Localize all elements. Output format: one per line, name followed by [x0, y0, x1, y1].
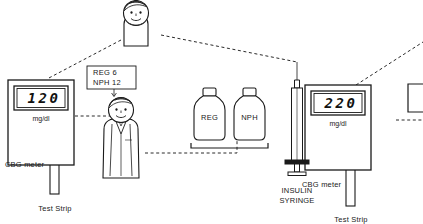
meter-reading-right: 220 — [319, 95, 363, 111]
syringe-label-line-1: INSULIN — [267, 186, 327, 195]
meter-reading-left: 120 — [22, 90, 66, 106]
connector-patient-to-syringe — [161, 35, 297, 62]
syringe-hub — [295, 80, 300, 88]
bottle-nph-cap — [243, 88, 256, 96]
bottle-label-nph: NPH — [234, 113, 265, 122]
dose-callout-line-2: NPH 12 — [93, 78, 121, 87]
clinician-figure — [103, 98, 139, 179]
meter-device-label-left: CBG meter — [5, 160, 44, 169]
dose-callout-line-1: REG 6 — [93, 68, 117, 77]
bottle-label-reg: REG — [194, 113, 225, 122]
meter-unit-right: mg/dl — [305, 120, 371, 127]
syringe-plunger-stem — [295, 164, 300, 172]
syringe-thumb-pad — [288, 172, 306, 176]
diagram-canvas: 120 mg/dl CBG meter Test Strip 220 mg/dl… — [0, 0, 423, 224]
test-strip-label-left: Test Strip — [24, 204, 86, 213]
meter-unit-left: mg/dl — [8, 115, 74, 122]
bottle-reg-cap — [203, 88, 216, 96]
bottles-bracket — [191, 143, 268, 148]
patient-figure — [124, 1, 149, 47]
diagram-artwork — [0, 0, 423, 224]
partial-box-right — [408, 84, 423, 112]
connector-right-meter-to-offscreen — [356, 42, 423, 85]
syringe-flange — [285, 160, 309, 164]
partial-box-outline — [408, 84, 423, 112]
syringe-label-line-2: SYRINGE — [267, 196, 327, 205]
test-strip-label-right: Test Strip — [320, 215, 382, 224]
